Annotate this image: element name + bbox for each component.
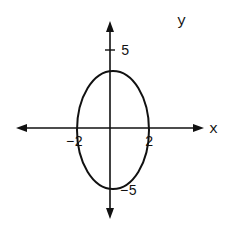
ellipse-diagram: y x 5 −5 −2 2 bbox=[0, 0, 229, 231]
x-axis-label: x bbox=[209, 121, 218, 138]
y-tick-label-pos: 5 bbox=[121, 43, 129, 59]
y-axis-label: y bbox=[177, 13, 186, 30]
x-tick-label-neg: −2 bbox=[66, 134, 83, 150]
x-axis-right-arrow-icon bbox=[193, 124, 204, 132]
y-axis-down-arrow-icon bbox=[106, 208, 114, 219]
y-tick-label-neg: −5 bbox=[120, 183, 137, 199]
ellipse-curve bbox=[77, 71, 149, 189]
y-axis-up-arrow-icon bbox=[106, 21, 114, 32]
x-axis-left-arrow-icon bbox=[16, 124, 27, 132]
x-tick-label-pos: 2 bbox=[145, 134, 153, 150]
